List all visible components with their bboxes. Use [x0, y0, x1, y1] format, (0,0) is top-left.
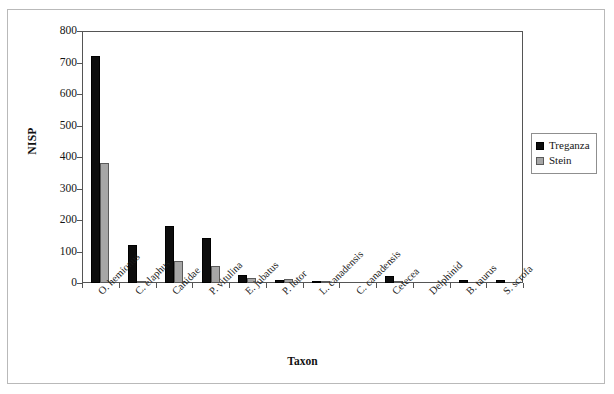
- y-axis-tick-mark: [77, 63, 82, 64]
- y-axis-tick-mark: [77, 31, 82, 32]
- x-axis-tick-mark: [303, 283, 304, 288]
- y-axis-tick-mark: [77, 126, 82, 127]
- bar-group: [349, 31, 367, 283]
- y-axis-tick-label: 400: [60, 151, 77, 163]
- bar-groups: [82, 31, 523, 283]
- x-axis-tick-mark: [486, 283, 487, 288]
- bar-group: [202, 31, 220, 283]
- y-axis-tick-mark: [77, 157, 82, 158]
- legend-item[interactable]: Stein: [536, 153, 590, 168]
- bar[interactable]: [91, 56, 100, 283]
- x-axis-tick-mark: [192, 283, 193, 288]
- y-axis-tick-label: 800: [60, 25, 77, 37]
- bar-group: [312, 31, 330, 283]
- y-axis-tick-label: 500: [60, 120, 77, 132]
- y-axis-tick-label: 100: [60, 246, 77, 258]
- x-axis-tick-mark: [82, 283, 83, 288]
- y-axis-tick-mark: [77, 220, 82, 221]
- bar[interactable]: [385, 276, 394, 283]
- x-axis-tick-mark: [156, 283, 157, 288]
- bar-group: [165, 31, 183, 283]
- bar-group: [385, 31, 403, 283]
- legend-item[interactable]: Treganza: [536, 138, 590, 153]
- y-axis-tick-label: 700: [60, 57, 77, 69]
- bar[interactable]: [100, 163, 109, 283]
- x-axis-title: Taxon: [82, 355, 523, 367]
- bar-group: [91, 31, 109, 283]
- x-axis-tick-mark: [413, 283, 414, 288]
- x-axis-tick-mark: [229, 283, 230, 288]
- legend-label: Treganza: [549, 140, 590, 151]
- x-axis-tick-mark: [266, 283, 267, 288]
- bar-group: [238, 31, 256, 283]
- y-axis-tick-labels: 0100200300400500600700800: [42, 31, 77, 283]
- x-axis-tick-mark: [450, 283, 451, 288]
- y-axis-tick-mark: [77, 252, 82, 253]
- legend-label: Stein: [549, 155, 572, 166]
- bar-group: [422, 31, 440, 283]
- legend-swatch-icon: [536, 142, 544, 150]
- figure-bar-chart: NISP 0100200300400500600700800 O. hemion…: [0, 0, 614, 394]
- legend: TreganzaStein: [531, 133, 597, 174]
- bar[interactable]: [312, 281, 321, 283]
- y-axis-tick-label: 300: [60, 183, 77, 195]
- x-axis-tick-mark: [119, 283, 120, 288]
- bar[interactable]: [165, 226, 174, 283]
- bar[interactable]: [459, 280, 468, 283]
- bar-group: [459, 31, 477, 283]
- bar[interactable]: [275, 280, 284, 283]
- bar[interactable]: [202, 238, 211, 283]
- bar[interactable]: [238, 275, 247, 283]
- x-axis-tick-mark: [523, 283, 524, 288]
- bar-group: [275, 31, 293, 283]
- y-axis-tick-label: 200: [60, 214, 77, 226]
- x-axis-tick-mark: [339, 283, 340, 288]
- bar-group: [128, 31, 146, 283]
- x-axis-tick-mark: [376, 283, 377, 288]
- legend-swatch-icon: [536, 157, 544, 165]
- y-axis-title: NISP: [26, 101, 38, 181]
- y-axis-tick-label: 600: [60, 88, 77, 100]
- y-axis-tick-mark: [77, 189, 82, 190]
- bar-group: [496, 31, 514, 283]
- y-axis-tick-mark: [77, 94, 82, 95]
- bar[interactable]: [496, 280, 505, 283]
